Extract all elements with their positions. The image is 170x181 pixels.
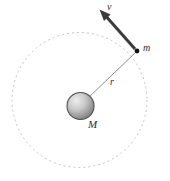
orbiting-point-mass (135, 49, 140, 54)
circular-orbit-diagram: v m r M (0, 0, 170, 181)
central-mass-sphere (67, 93, 94, 120)
central-mass-label: M (88, 119, 97, 130)
orbit-diagram-canvas (0, 0, 170, 181)
velocity-label: v (107, 2, 111, 12)
velocity-arrow-shaft (104, 14, 135, 49)
radius-label: r (110, 77, 114, 87)
orbiting-mass-label: m (143, 43, 150, 53)
